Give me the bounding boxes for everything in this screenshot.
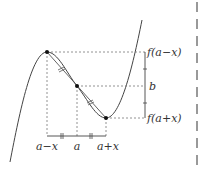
label-b: b — [149, 80, 156, 93]
label-f-a-plus-x: f(a+x) — [146, 112, 182, 125]
label-f-a-minus-x: f(a−x) — [146, 46, 182, 59]
vertical-guides — [47, 52, 106, 136]
horizontal-guides — [47, 52, 145, 118]
label-a: a — [74, 140, 81, 153]
peak-point — [45, 50, 49, 54]
label-a-minus-x: a−x — [36, 140, 59, 153]
inflection-point — [75, 84, 79, 88]
diagram-canvas: f(a−x) b f(a+x) a−x a a+x — [0, 0, 207, 169]
cubic-diagram: f(a−x) b f(a+x) a−x a a+x — [0, 0, 207, 169]
minimum-point — [104, 116, 108, 120]
label-a-plus-x: a+x — [97, 140, 120, 153]
